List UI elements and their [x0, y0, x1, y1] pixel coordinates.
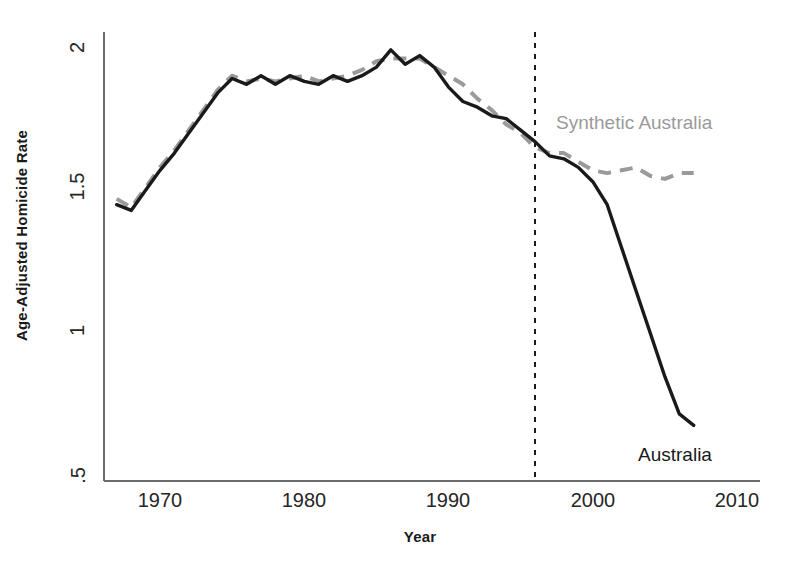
y-tick-1-5-text: 1.5: [67, 172, 90, 200]
synthetic-australia-label: Synthetic Australia: [556, 112, 712, 134]
australia-label: Australia: [638, 444, 712, 466]
y-axis-title-text: Age-Adjusted Homicide Rate: [14, 129, 31, 340]
y-tick-0-5: .5: [58, 462, 98, 488]
x-tick-1980: 1980: [264, 489, 344, 512]
y-tick-1: 1: [58, 317, 98, 343]
y-tick-2: 2: [58, 34, 98, 60]
x-tick-1990: 1990: [408, 489, 488, 512]
series-australia: [117, 50, 694, 426]
chart-plot-area: [0, 0, 790, 575]
x-axis-title: Year: [360, 528, 480, 545]
x-tick-1970: 1970: [120, 489, 200, 512]
x-tick-2010: 2010: [697, 489, 777, 512]
y-tick-1-text: 1: [67, 324, 90, 335]
axes-group: [104, 32, 760, 481]
y-axis-title: Age-Adjusted Homicide Rate: [0, 0, 44, 470]
series-group: [117, 50, 694, 426]
y-tick-1-5: 1.5: [58, 173, 98, 199]
x-tick-2000: 2000: [553, 489, 633, 512]
y-tick-0-5-text: .5: [67, 467, 90, 484]
y-tick-2-text: 2: [67, 41, 90, 52]
chart-figure: Age-Adjusted Homicide Rate Year 2 1.5 1 …: [0, 0, 790, 575]
